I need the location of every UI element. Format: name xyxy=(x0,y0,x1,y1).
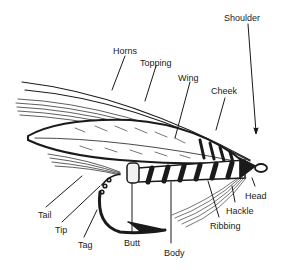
head-drawing xyxy=(240,158,267,178)
butt-drawing xyxy=(127,163,139,183)
label-butt: Butt xyxy=(124,238,140,248)
label-topping: Topping xyxy=(140,58,172,68)
tip-drawing xyxy=(100,174,120,194)
label-cheek: Cheek xyxy=(211,86,237,96)
label-hackle: Hackle xyxy=(226,206,254,216)
label-tag: Tag xyxy=(78,240,93,250)
label-body: Body xyxy=(164,248,185,258)
label-wing: Wing xyxy=(178,73,199,83)
label-head: Head xyxy=(245,191,267,201)
body-drawing xyxy=(138,160,245,182)
wing-drawing xyxy=(28,120,245,164)
label-tip: Tip xyxy=(55,225,67,235)
label-ribbing: Ribbing xyxy=(210,221,241,231)
salmon-fly-diagram xyxy=(0,0,283,270)
label-shoulder: Shoulder xyxy=(224,13,260,23)
label-horns: Horns xyxy=(113,46,137,56)
label-tail: Tail xyxy=(38,210,52,220)
